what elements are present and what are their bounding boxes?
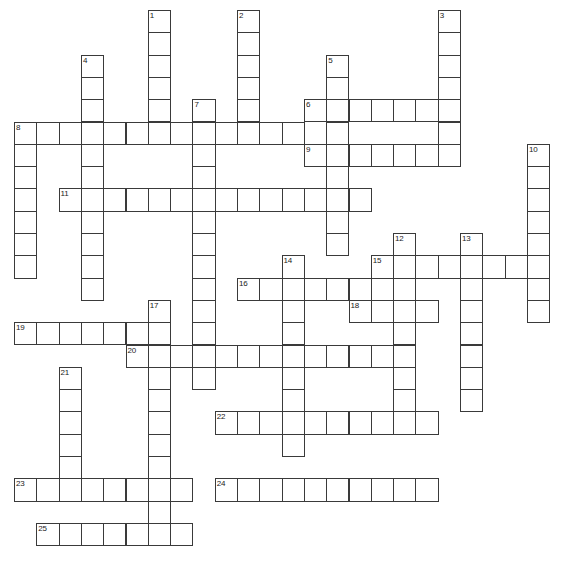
crossword-cell[interactable] (192, 367, 215, 390)
crossword-cell[interactable] (237, 10, 260, 33)
crossword-cell[interactable] (282, 367, 305, 390)
crossword-cell[interactable] (415, 99, 438, 122)
crossword-cell[interactable] (192, 99, 215, 122)
crossword-cell[interactable] (81, 478, 104, 501)
crossword-cell[interactable] (326, 411, 349, 434)
crossword-cell[interactable] (282, 278, 305, 301)
crossword-cell[interactable] (393, 255, 416, 278)
crossword-cell[interactable] (148, 32, 171, 55)
crossword-cell[interactable] (393, 99, 416, 122)
crossword-cell[interactable] (349, 188, 372, 211)
crossword-cell[interactable] (282, 300, 305, 323)
crossword-cell[interactable] (371, 255, 394, 278)
crossword-cell[interactable] (393, 478, 416, 501)
crossword-cell[interactable] (59, 389, 82, 412)
crossword-cell[interactable] (326, 233, 349, 256)
crossword-cell[interactable] (237, 77, 260, 100)
crossword-cell[interactable] (148, 389, 171, 412)
crossword-cell[interactable] (237, 99, 260, 122)
crossword-cell[interactable] (81, 188, 104, 211)
crossword-cell[interactable] (482, 255, 505, 278)
crossword-cell[interactable] (148, 99, 171, 122)
crossword-cell[interactable] (59, 122, 82, 145)
crossword-cell[interactable] (349, 144, 372, 167)
crossword-cell[interactable] (460, 389, 483, 412)
crossword-cell[interactable] (192, 345, 215, 368)
crossword-cell[interactable] (126, 322, 149, 345)
crossword-cell[interactable] (371, 478, 394, 501)
crossword-cell[interactable] (81, 99, 104, 122)
crossword-cell[interactable] (259, 122, 282, 145)
crossword-cell[interactable] (81, 166, 104, 189)
crossword-cell[interactable] (282, 122, 305, 145)
crossword-cell[interactable] (148, 322, 171, 345)
crossword-cell[interactable] (14, 166, 37, 189)
crossword-cell[interactable] (393, 367, 416, 390)
crossword-cell[interactable] (438, 255, 461, 278)
crossword-cell[interactable] (36, 523, 59, 546)
crossword-cell[interactable] (371, 300, 394, 323)
crossword-cell[interactable] (527, 278, 550, 301)
crossword-cell[interactable] (148, 300, 171, 323)
crossword-cell[interactable] (14, 322, 37, 345)
crossword-cell[interactable] (192, 144, 215, 167)
crossword-cell[interactable] (14, 255, 37, 278)
crossword-cell[interactable] (81, 278, 104, 301)
crossword-cell[interactable] (215, 122, 238, 145)
crossword-cell[interactable] (215, 188, 238, 211)
crossword-cell[interactable] (148, 501, 171, 524)
crossword-cell[interactable] (527, 300, 550, 323)
crossword-cell[interactable] (393, 345, 416, 368)
crossword-cell[interactable] (192, 255, 215, 278)
crossword-cell[interactable] (148, 122, 171, 145)
crossword-cell[interactable] (282, 478, 305, 501)
crossword-cell[interactable] (192, 322, 215, 345)
crossword-cell[interactable] (415, 478, 438, 501)
crossword-cell[interactable] (81, 55, 104, 78)
crossword-cell[interactable] (349, 300, 372, 323)
crossword-cell[interactable] (59, 523, 82, 546)
crossword-cell[interactable] (36, 322, 59, 345)
crossword-cell[interactable] (326, 278, 349, 301)
crossword-cell[interactable] (326, 211, 349, 234)
crossword-cell[interactable] (326, 122, 349, 145)
crossword-cell[interactable] (81, 322, 104, 345)
crossword-cell[interactable] (393, 233, 416, 256)
crossword-cell[interactable] (282, 389, 305, 412)
crossword-cell[interactable] (59, 434, 82, 457)
crossword-cell[interactable] (14, 188, 37, 211)
crossword-cell[interactable] (14, 211, 37, 234)
crossword-cell[interactable] (326, 478, 349, 501)
crossword-cell[interactable] (237, 411, 260, 434)
crossword-cell[interactable] (237, 278, 260, 301)
crossword-cell[interactable] (438, 55, 461, 78)
crossword-cell[interactable] (126, 345, 149, 368)
crossword-cell[interactable] (237, 188, 260, 211)
crossword-cell[interactable] (81, 144, 104, 167)
crossword-cell[interactable] (304, 278, 327, 301)
crossword-cell[interactable] (148, 10, 171, 33)
crossword-cell[interactable] (438, 99, 461, 122)
crossword-cell[interactable] (371, 411, 394, 434)
crossword-cell[interactable] (415, 255, 438, 278)
crossword-cell[interactable] (81, 523, 104, 546)
crossword-cell[interactable] (460, 233, 483, 256)
crossword-cell[interactable] (349, 99, 372, 122)
crossword-cell[interactable] (81, 255, 104, 278)
crossword-cell[interactable] (192, 278, 215, 301)
crossword-cell[interactable] (59, 322, 82, 345)
crossword-cell[interactable] (126, 188, 149, 211)
crossword-cell[interactable] (349, 345, 372, 368)
crossword-cell[interactable] (126, 523, 149, 546)
crossword-cell[interactable] (215, 478, 238, 501)
crossword-cell[interactable] (59, 188, 82, 211)
crossword-cell[interactable] (438, 122, 461, 145)
crossword-cell[interactable] (259, 188, 282, 211)
crossword-cell[interactable] (237, 32, 260, 55)
crossword-cell[interactable] (326, 345, 349, 368)
crossword-cell[interactable] (148, 345, 171, 368)
crossword-cell[interactable] (527, 233, 550, 256)
crossword-cell[interactable] (148, 55, 171, 78)
crossword-cell[interactable] (349, 278, 372, 301)
crossword-cell[interactable] (126, 122, 149, 145)
